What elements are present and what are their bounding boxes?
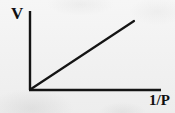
data-series-group	[31, 21, 134, 89]
y-axis-label: V	[11, 5, 23, 22]
physics-plot-figure: V 1/P	[0, 0, 175, 113]
x-axis-label: 1/P	[149, 93, 170, 108]
data-line-v-vs-inverse-p	[31, 21, 134, 89]
